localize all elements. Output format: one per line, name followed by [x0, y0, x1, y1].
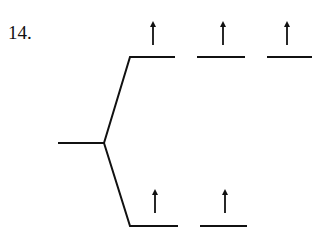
diagram-canvas: 14.: [0, 0, 315, 235]
upper-connector-and-orbital-1: [104, 57, 175, 143]
lower-connector-and-orbital-1: [104, 143, 178, 226]
splitting-diagram: [0, 0, 315, 235]
